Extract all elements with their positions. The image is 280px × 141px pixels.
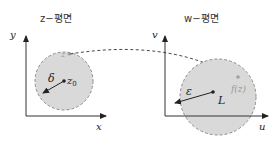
z0-point (62, 79, 66, 83)
fz-point (236, 75, 240, 79)
epsilon-label: ε (186, 85, 192, 98)
fz-label: f(z) (230, 84, 247, 94)
w-plane-title: w−평면 (184, 13, 219, 24)
x-axis-label: x (96, 121, 102, 132)
z-point-label: z (60, 50, 66, 59)
mapping-diagram: z−평면 y x δ z0 z w−평면 v u ε L f(z) (0, 0, 280, 141)
z-plane-panel: z−평면 y x δ z0 z (9, 13, 106, 132)
L-point (211, 90, 215, 94)
v-axis-label: v (152, 29, 158, 40)
delta-label: δ (48, 72, 55, 85)
y-axis-label: y (9, 29, 16, 40)
w-plane-panel: w−평면 v u ε L f(z) (152, 13, 268, 135)
L-label: L (217, 94, 225, 107)
u-axis-label: u (259, 121, 265, 132)
z-plane-title: z−평면 (40, 13, 72, 24)
